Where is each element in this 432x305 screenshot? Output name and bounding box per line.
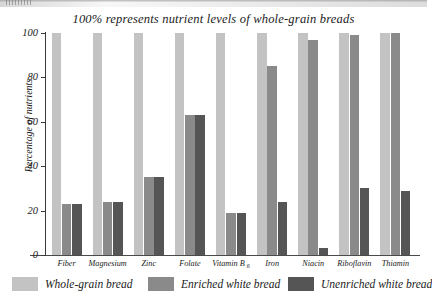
y-tick-mark <box>41 255 46 256</box>
x-category-label: Fiber <box>57 259 75 268</box>
bar <box>319 248 329 255</box>
bar <box>257 33 267 255</box>
bar <box>113 202 123 255</box>
bar <box>175 33 185 255</box>
bar <box>308 40 318 255</box>
x-category-label: Niacin <box>302 259 324 268</box>
chart-legend: Whole-grain breadEnriched white breadUne… <box>0 277 427 301</box>
legend-label: Unenriched white bread <box>321 278 432 290</box>
x-category-label: Iron <box>265 259 279 268</box>
x-category-label: Zinc <box>141 259 156 268</box>
x-category-label: Magnesium <box>89 259 127 268</box>
legend-item[interactable]: Whole-grain bread <box>12 277 132 291</box>
x-category-label: Riboflavin <box>337 259 371 268</box>
y-tick-label: 20 <box>12 206 38 216</box>
bar <box>339 33 349 255</box>
bar <box>216 33 226 255</box>
bar <box>154 177 164 255</box>
x-axis-line <box>30 255 420 256</box>
bar <box>380 33 390 255</box>
chart-title: 100% represents nutrient levels of whole… <box>0 12 427 27</box>
y-tick-label: 100 <box>12 28 38 38</box>
legend-label: Whole-grain bread <box>45 278 132 290</box>
y-tick-label: 60 <box>12 117 38 127</box>
bar <box>237 213 247 255</box>
bar <box>391 33 401 255</box>
scan-artifact <box>0 0 427 7</box>
bar <box>195 115 205 255</box>
legend-swatch-icon <box>148 277 174 291</box>
bar <box>267 66 277 255</box>
bar <box>298 33 308 255</box>
bar <box>350 35 360 255</box>
bar <box>360 188 370 255</box>
bar <box>401 191 411 255</box>
bar <box>278 202 288 255</box>
bar <box>144 177 154 255</box>
bar <box>72 204 82 255</box>
x-category-label: Folate <box>179 259 200 268</box>
y-tick-label: 0 <box>12 250 38 260</box>
legend-item[interactable]: Unenriched white bread <box>288 277 432 291</box>
bar <box>134 33 144 255</box>
y-tick-label: 80 <box>12 72 38 82</box>
y-tick-label: 40 <box>12 161 38 171</box>
legend-swatch-icon <box>12 277 38 291</box>
bar <box>52 33 62 255</box>
bar <box>93 33 103 255</box>
x-category-label: Thiamin <box>382 259 409 268</box>
bar <box>62 204 72 255</box>
plot-area <box>46 33 416 255</box>
legend-item[interactable]: Enriched white bread <box>148 277 280 291</box>
bar <box>226 213 236 255</box>
legend-label: Enriched white bread <box>181 278 280 290</box>
bar <box>185 115 195 255</box>
legend-swatch-icon <box>288 277 314 291</box>
x-category-label: Vitamin B 6 <box>212 259 249 268</box>
bar <box>103 202 113 255</box>
